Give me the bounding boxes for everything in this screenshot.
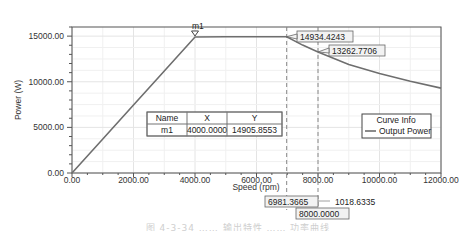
marker-table-cell: Y <box>252 113 258 123</box>
marker-table-cell: 4000.0000 <box>187 125 227 135</box>
y-tick-label: 5000.00 <box>33 122 64 132</box>
figure-caption: 图 4-3-34 …… 输出特性 …… 功率曲线 <box>0 221 476 231</box>
y-tick-label: 15000.00 <box>29 31 65 41</box>
y-tick-label: 0.00 <box>47 168 64 178</box>
legend-curve-info: Curve InfoOutput Power <box>362 114 431 138</box>
y-tick-label: 10000.00 <box>29 77 65 87</box>
x-tick-label: 10000.00 <box>362 175 398 185</box>
y-axis-title: Power (W) <box>13 80 23 120</box>
legend-title: Curve Info <box>376 115 415 125</box>
marker-m1[interactable]: m1 <box>192 21 205 36</box>
x-tick-label: 2000.00 <box>118 175 149 185</box>
x-tick-label: 4000.00 <box>180 175 211 185</box>
marker-table-cell: Name <box>156 113 179 123</box>
power-speed-chart: 0.005000.0010000.0015000.00 0.002000.004… <box>0 0 476 231</box>
annotation-label: 14934.4243 <box>300 32 345 42</box>
marker-label: m1 <box>192 21 204 31</box>
delta-label: 1018.6335 <box>335 197 375 207</box>
x-tick-label: 12000.00 <box>423 175 459 185</box>
marker-table: NameXYm14000.000014905.8553 <box>147 112 282 136</box>
marker-table-cell: X <box>204 113 210 123</box>
x-axis-title: Speed (rpm) <box>232 182 279 192</box>
legend-entry: Output Power <box>379 126 431 136</box>
grid-lines <box>72 27 441 173</box>
marker-table-cell: m1 <box>161 125 173 135</box>
marker-triangle-icon[interactable] <box>192 31 199 36</box>
annotation-label: 13262.7706 <box>332 46 377 56</box>
x-tick-label: 0.00 <box>64 175 81 185</box>
annotation-label: 6981.3665 <box>268 197 308 207</box>
marker-table-cell: 14905.8553 <box>232 125 277 135</box>
y-axis: 0.005000.0010000.0015000.00 <box>29 27 72 178</box>
annotation-label: 8000.0000 <box>299 209 339 219</box>
